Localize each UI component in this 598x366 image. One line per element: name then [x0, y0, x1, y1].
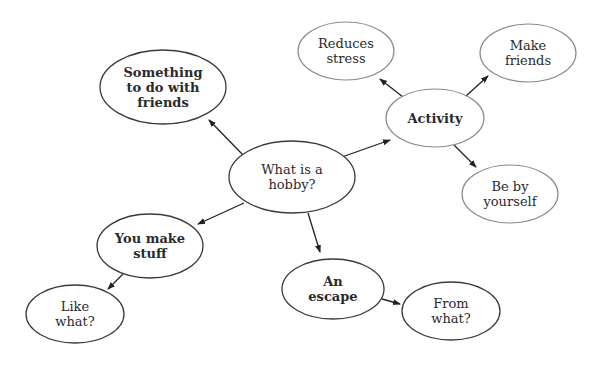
node-label: stress	[326, 51, 365, 66]
arrow-activity-to-reduces_stress	[380, 79, 403, 97]
node-activity: Activity	[386, 89, 484, 147]
node-label: Reduces	[318, 36, 374, 51]
node-label: What is a	[261, 162, 323, 177]
arrow-make_stuff-to-like_what	[108, 274, 123, 289]
node-label: to do with	[126, 80, 200, 95]
node-label: Like	[61, 299, 90, 314]
node-label: what?	[55, 314, 94, 329]
node-friends_activity: Somethingto do withfriends	[100, 50, 226, 124]
node-label: You make	[114, 231, 185, 246]
node-be_by_yourself: Be byyourself	[462, 165, 558, 223]
node-label: friends	[505, 53, 551, 68]
arrow-escape-to-from_what	[382, 299, 400, 304]
node-label: friends	[137, 95, 189, 110]
arrow-hobby-to-make_stuff	[198, 203, 244, 224]
node-label: Activity	[407, 111, 463, 126]
node-label: Be by	[491, 179, 529, 194]
nodes-layer: What is ahobby?Somethingto do withfriend…	[26, 22, 576, 343]
node-make_stuff: You makestuff	[97, 214, 203, 278]
node-label: From	[433, 296, 468, 311]
node-label: hobby?	[268, 177, 315, 192]
arrow-activity-to-be_by_yourself	[454, 145, 476, 167]
arrow-hobby-to-friends_activity	[209, 120, 243, 155]
node-label: Make	[510, 38, 547, 53]
node-label: stuff	[133, 246, 168, 261]
node-label: escape	[308, 289, 357, 304]
node-label: Something	[123, 65, 202, 80]
node-hobby: What is ahobby?	[229, 141, 355, 213]
node-label: An	[322, 274, 343, 289]
node-label: yourself	[482, 194, 537, 209]
node-label: what?	[431, 311, 470, 326]
node-make_friends: Makefriends	[480, 24, 576, 82]
arrow-hobby-to-activity	[342, 140, 390, 157]
node-reduces_stress: Reducesstress	[298, 22, 394, 80]
arrow-activity-to-make_friends	[466, 76, 488, 96]
node-escape: Anescape	[282, 259, 384, 319]
concept-map: What is ahobby?Somethingto do withfriend…	[0, 0, 598, 366]
node-from_what: Fromwhat?	[402, 282, 500, 340]
node-like_what: Likewhat?	[26, 285, 124, 343]
arrow-hobby-to-escape	[308, 213, 320, 252]
